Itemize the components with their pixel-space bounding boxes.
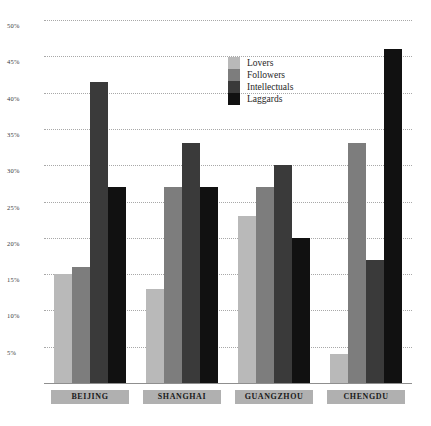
bar-chart: 5%10%15%20%25%30%35%40%45%50% BEIJINGSHA… — [0, 0, 431, 426]
legend-item: Lovers — [228, 57, 338, 69]
bar — [182, 143, 200, 383]
legend-label: Followers — [247, 69, 285, 81]
y-axis-tick-label: 30% — [7, 167, 47, 174]
y-axis-tick-label: 20% — [7, 240, 47, 247]
legend-label: Lovers — [247, 57, 273, 69]
y-axis: 5%10%15%20%25%30%35%40%45%50% — [0, 0, 44, 426]
bar — [108, 187, 126, 383]
bar — [274, 165, 292, 383]
y-axis-tick-label: 45% — [7, 58, 47, 65]
legend-item: Intellectuals — [228, 81, 338, 93]
y-axis-tick-label: 15% — [7, 276, 47, 283]
legend-swatch-icon — [228, 93, 240, 105]
bar — [146, 289, 164, 383]
y-axis-tick-label: 50% — [7, 22, 47, 29]
legend-label: Laggards — [247, 93, 282, 105]
legend-item: Laggards — [228, 93, 338, 105]
legend-swatch-icon — [228, 69, 240, 81]
y-axis-tick-label: 25% — [7, 204, 47, 211]
legend-item: Followers — [228, 69, 338, 81]
y-axis-tick-label: 35% — [7, 131, 47, 138]
bar — [330, 354, 348, 383]
bar — [238, 216, 256, 383]
x-axis-baseline — [44, 383, 412, 384]
bar — [164, 187, 182, 383]
category-label-shanghai: SHANGHAI — [143, 390, 221, 404]
bar — [256, 187, 274, 383]
bar — [90, 82, 108, 383]
category-label-guangzhou: GUANGZHOU — [235, 390, 313, 404]
legend-swatch-icon — [228, 81, 240, 93]
category-label-beijing: BEIJING — [51, 390, 129, 404]
category-label-chengdu: CHENGDU — [327, 390, 405, 404]
bar — [200, 187, 218, 383]
gridline — [44, 20, 412, 21]
y-axis-tick-label: 40% — [7, 95, 47, 102]
legend: LoversFollowersIntellectualsLaggards — [228, 57, 338, 105]
bar — [292, 238, 310, 383]
bar — [384, 49, 402, 383]
y-axis-tick-label: 5% — [7, 349, 47, 356]
bar — [348, 143, 366, 383]
bar — [54, 274, 72, 383]
bar — [72, 267, 90, 383]
y-axis-tick-label: 10% — [7, 312, 47, 319]
top-caption — [60, 0, 360, 6]
legend-swatch-icon — [228, 57, 240, 69]
bar — [366, 260, 384, 383]
legend-label: Intellectuals — [247, 81, 293, 93]
